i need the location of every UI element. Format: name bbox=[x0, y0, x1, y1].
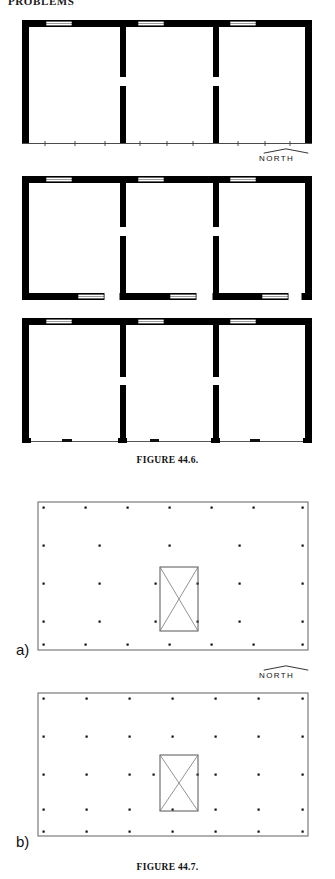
page-canvas: PROBLEMS bbox=[0, 0, 335, 879]
north-label: NORTH bbox=[259, 154, 294, 163]
panel-b-label: b) bbox=[16, 833, 29, 850]
floor-plan-middle bbox=[22, 176, 312, 301]
panel-b-plot bbox=[38, 693, 308, 836]
figure-44-6-graphic bbox=[0, 14, 335, 454]
north-label-2: NORTH bbox=[259, 671, 294, 680]
figure-44-6-svg bbox=[0, 14, 335, 454]
figure-44-7-caption: FIGURE 44.7. bbox=[0, 862, 335, 872]
panel-a-plot bbox=[38, 502, 308, 650]
north-marker-figure-44-7: NORTH bbox=[259, 665, 313, 680]
panel-a-label: a) bbox=[16, 641, 29, 658]
figure-44-6-caption: FIGURE 44.6. bbox=[0, 455, 335, 465]
floor-plan-top bbox=[22, 20, 312, 146]
running-head: PROBLEMS bbox=[8, 0, 75, 7]
north-marker-figure-44-6: NORTH bbox=[259, 148, 313, 163]
floor-plan-bottom bbox=[22, 318, 312, 443]
